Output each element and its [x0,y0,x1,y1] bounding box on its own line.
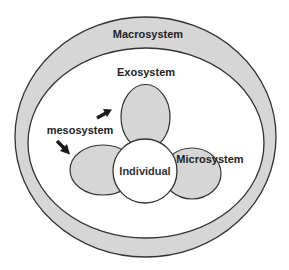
ecological-systems-diagram: Macrosystem Exosystem mesosystem Microsy… [0,0,289,270]
individual-label: Individual [119,165,170,177]
microsystem-label: Microsystem [176,153,243,165]
macrosystem-label: Macrosystem [113,28,184,40]
exosystem-label: Exosystem [117,66,175,78]
mesosystem-label: mesosystem [47,124,114,136]
